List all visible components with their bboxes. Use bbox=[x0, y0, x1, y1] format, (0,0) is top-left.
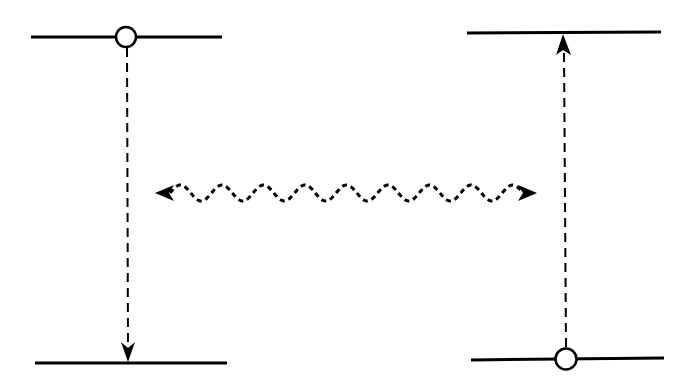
right-arrowhead-icon bbox=[518, 185, 537, 201]
wavy-dashed-line bbox=[170, 185, 523, 201]
right-transition-dashed-line bbox=[564, 52, 566, 347]
energy-transfer-diagram bbox=[0, 0, 699, 385]
right-system bbox=[467, 32, 664, 370]
left-down-arrowhead-icon bbox=[121, 342, 135, 362]
right-hole-circle bbox=[556, 349, 577, 370]
right-up-arrowhead-icon bbox=[556, 34, 571, 55]
right-upper-level bbox=[467, 32, 661, 33]
left-transition-dashed-line bbox=[127, 48, 128, 348]
left-system bbox=[31, 27, 227, 363]
coupling-wavy-arrow bbox=[155, 185, 537, 201]
left-hole-circle bbox=[116, 27, 136, 47]
